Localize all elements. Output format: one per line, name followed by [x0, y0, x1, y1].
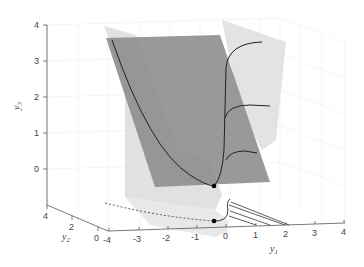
z-tick-0: 0: [34, 164, 39, 174]
projected-equilibrium: [212, 219, 217, 224]
y-tick-2: 2: [69, 222, 74, 232]
x-tick-0: 0: [223, 231, 228, 241]
equilibrium-point: [212, 184, 217, 189]
x-tick-4: 4: [341, 227, 346, 237]
z-axis-label: y3: [11, 102, 24, 111]
z-tick-1: 1: [34, 128, 39, 138]
z-ticks: [43, 25, 47, 169]
x-tick--1: -1: [191, 232, 199, 242]
x-tick-3: 3: [312, 228, 317, 238]
y-tick-0: 0: [94, 233, 99, 243]
x-tick--2: -2: [162, 233, 170, 243]
x-tick-1: 1: [253, 230, 258, 240]
floor-trajectories: [229, 202, 289, 225]
y-axis-label: y2: [61, 231, 70, 244]
x-tick--3: -3: [133, 234, 141, 244]
3d-plot: 4 3 2 1 0 y3 4 2 0 y2 -4 -3 -2 -1 0 1 2 …: [0, 0, 364, 267]
z-tick-4: 4: [34, 20, 39, 30]
z-tick-3: 3: [34, 56, 39, 66]
x-axis-label: y1: [269, 243, 278, 256]
z-tick-2: 2: [34, 92, 39, 102]
x-tick--4: -4: [103, 235, 111, 245]
y-tick-4: 4: [43, 211, 48, 221]
x-tick-2: 2: [283, 229, 288, 239]
